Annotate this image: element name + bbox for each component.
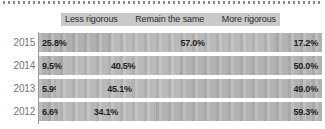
bar-row: 2015 25.8% 57.0% 17.2% <box>0 33 325 52</box>
segment-remain-the-same: 57.0% <box>112 33 273 52</box>
segment-value-label: 40.5% <box>111 61 136 71</box>
legend-item-more-rigorous: More rigorous <box>222 13 276 26</box>
legend-item-remain-the-same: Remain the same <box>135 13 204 26</box>
year-label-2015: 2015 <box>8 33 35 52</box>
bar-row: 2014 9.5% 40.5% 50.0% <box>0 56 325 75</box>
segment-less-rigorous: 6.6% <box>39 102 58 121</box>
segment-value-label: 45.1% <box>107 84 132 94</box>
segment-less-rigorous: 5.9% <box>39 79 56 98</box>
year-label-2014: 2014 <box>8 56 35 75</box>
segment-value-label: 5.9% <box>42 84 56 94</box>
segment-remain-the-same: 34.1% <box>58 102 155 121</box>
segment-value-label: 25.8% <box>42 38 67 48</box>
segment-more-rigorous: 49.0% <box>183 79 322 98</box>
top-dotted-divider <box>3 1 322 4</box>
year-label-2013: 2013 <box>8 79 35 98</box>
stacked-bar-2013: 5.9% 45.1% 49.0% <box>39 79 322 98</box>
stacked-bar-2015: 25.8% 57.0% 17.2% <box>39 33 322 52</box>
stacked-bar-2014: 9.5% 40.5% 50.0% <box>39 56 322 75</box>
segment-value-label: 9.5% <box>42 61 62 71</box>
segment-value-label: 57.0% <box>180 38 205 48</box>
segment-value-label: 59.3% <box>293 107 318 117</box>
plot-area: 2015 25.8% 57.0% 17.2% 2014 9.5% <box>0 30 325 125</box>
segment-value-label: 34.1% <box>94 107 119 117</box>
segment-value-label: 17.2% <box>293 38 318 48</box>
bar-row: 2012 6.6% 34.1% 59.3% <box>0 102 325 121</box>
segment-less-rigorous: 25.8% <box>39 33 112 52</box>
stacked-bar-2012: 6.6% 34.1% 59.3% <box>39 102 322 121</box>
segment-more-rigorous: 17.2% <box>273 33 322 52</box>
year-label-2012: 2012 <box>8 102 35 121</box>
segment-more-rigorous: 59.3% <box>154 102 322 121</box>
stacked-bar-chart: Less rigorous Remain the same More rigor… <box>0 0 325 129</box>
bar-row: 2013 5.9% 45.1% 49.0% <box>0 79 325 98</box>
segment-less-rigorous: 9.5% <box>39 56 66 75</box>
segment-value-label: 6.6% <box>42 107 58 117</box>
segment-remain-the-same: 40.5% <box>66 56 181 75</box>
segment-remain-the-same: 45.1% <box>56 79 184 98</box>
segment-more-rigorous: 50.0% <box>180 56 322 75</box>
segment-value-label: 49.0% <box>293 84 318 94</box>
chart-legend: Less rigorous Remain the same More rigor… <box>61 13 280 26</box>
segment-value-label: 50.0% <box>293 61 318 71</box>
legend-item-less-rigorous: Less rigorous <box>65 13 118 26</box>
